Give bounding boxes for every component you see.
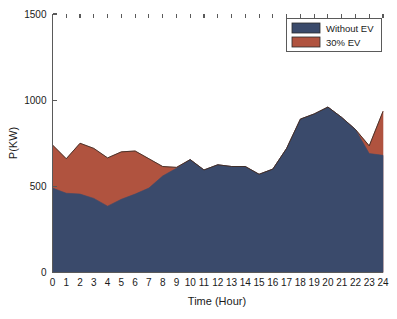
y-tick-label: 0	[41, 267, 47, 278]
x-tick-label: 12	[212, 277, 224, 288]
x-tick-label: 15	[254, 277, 266, 288]
x-axis-title: Time (Hour)	[188, 295, 246, 307]
x-tick-label: 9	[174, 277, 180, 288]
y-axis-ticks: 050010001500	[24, 9, 56, 279]
x-tick-label: 7	[146, 277, 152, 288]
x-tick-label: 16	[267, 277, 279, 288]
x-tick-label: 13	[226, 277, 238, 288]
x-tick-label: 8	[160, 277, 166, 288]
x-tick-label: 4	[105, 277, 111, 288]
x-tick-label: 5	[119, 277, 125, 288]
x-tick-label: 1	[63, 277, 69, 288]
x-tick-label: 19	[309, 277, 321, 288]
x-tick-label: 24	[377, 277, 389, 288]
x-tick-label: 20	[322, 277, 334, 288]
x-tick-label: 23	[364, 277, 376, 288]
x-tick-label: 0	[50, 277, 56, 288]
y-tick-label: 500	[30, 181, 47, 192]
x-tick-label: 11	[199, 277, 210, 288]
y-tick-label: 1500	[24, 9, 47, 20]
chart-figure: 050010001500 012345678910111213141516171…	[0, 0, 397, 319]
x-tick-label: 2	[77, 277, 83, 288]
x-tick-label: 18	[295, 277, 307, 288]
area-chart: 050010001500 012345678910111213141516171…	[0, 0, 397, 319]
y-axis-title: P(KW)	[7, 127, 19, 159]
x-tick-label: 3	[91, 277, 97, 288]
x-tick-label: 10	[185, 277, 197, 288]
x-tick-label: 17	[281, 277, 293, 288]
y-tick-label: 1000	[24, 95, 47, 106]
x-tick-label: 6	[132, 277, 138, 288]
legend-label-30-ev: 30% EV	[326, 37, 361, 48]
x-tick-label: 22	[350, 277, 362, 288]
legend-swatch-30-ev	[292, 37, 320, 47]
x-tick-label: 14	[240, 277, 252, 288]
chart-legend: Without EV 30% EV	[287, 19, 382, 52]
legend-label-without-ev: Without EV	[326, 23, 374, 34]
legend-swatch-without-ev	[292, 23, 320, 33]
x-tick-label: 21	[336, 277, 348, 288]
